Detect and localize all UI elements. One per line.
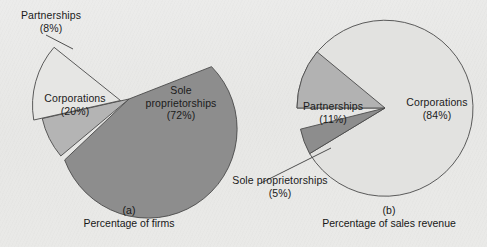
label-b-sole-proprietorships: Sole proprietorships (5%)	[222, 174, 338, 199]
label-b-corporations-value: (84%)	[392, 109, 482, 122]
leader-line-a-partnerships	[46, 35, 73, 49]
label-a-partnerships: Partnerships (8%)	[6, 9, 96, 34]
label-a-sole-proprietorships: Sole proprietorships (72%)	[133, 84, 229, 122]
caption-a: (a) Percentage of firms	[74, 204, 184, 230]
label-b-partnerships-name: Partnerships	[303, 100, 363, 112]
label-a-corporations-name: Corporations	[44, 92, 105, 104]
label-a-corporations-value: (20%)	[28, 105, 122, 118]
pie-a	[33, 47, 238, 218]
label-a-partnerships-value: (8%)	[6, 22, 96, 35]
label-b-sole-name: Sole proprietorships	[232, 174, 327, 186]
label-a-partnerships-name: Partnerships	[21, 9, 81, 21]
label-a-sole-line2: proprietorships	[133, 97, 229, 110]
caption-b: (b) Percentage of sales revenue	[312, 204, 466, 230]
label-b-corporations: Corporations (84%)	[392, 96, 482, 121]
label-a-corporations: Corporations (20%)	[28, 92, 122, 117]
label-b-partnerships: Partnerships (11%)	[290, 100, 376, 125]
caption-b-label: (b)	[383, 204, 396, 216]
label-b-sole-value: (5%)	[222, 187, 338, 200]
caption-a-text: Percentage of firms	[74, 217, 184, 230]
label-a-sole-value: (72%)	[133, 109, 229, 122]
label-b-corporations-name: Corporations	[406, 96, 467, 108]
figure-two-pie-charts: Partnerships (8%) Corporations (20%) Sol…	[0, 0, 487, 247]
label-a-sole-line1: Sole	[170, 84, 191, 96]
caption-a-label: (a)	[123, 204, 136, 216]
label-b-partnerships-value: (11%)	[290, 113, 376, 126]
caption-b-text: Percentage of sales revenue	[312, 217, 466, 230]
